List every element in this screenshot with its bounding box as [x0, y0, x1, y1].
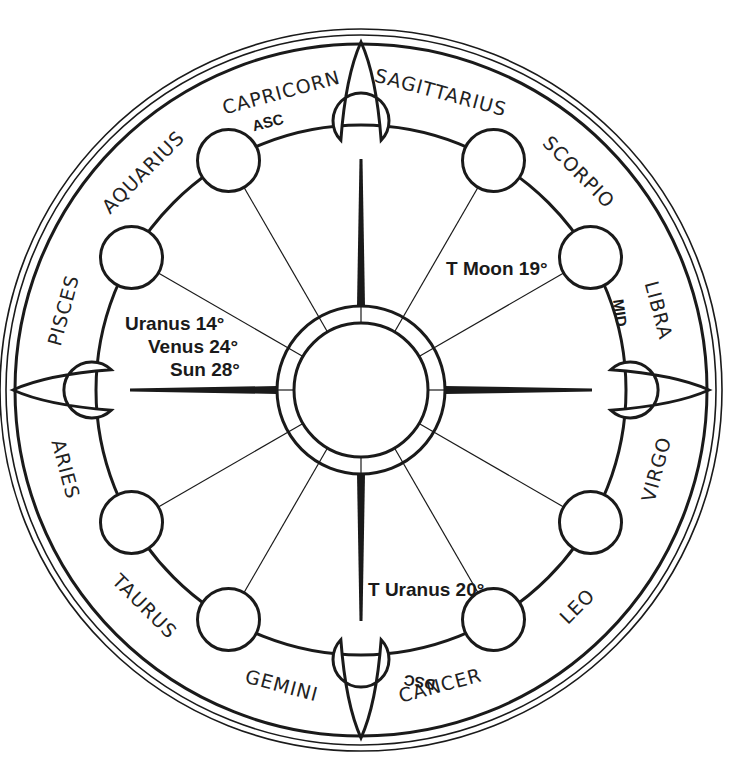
angle-axis [130, 386, 277, 394]
house-cusp-line [434, 432, 565, 508]
angle-axis [445, 386, 592, 394]
house-circle [463, 130, 525, 192]
house-circle [198, 588, 260, 650]
house-cusp-line [157, 432, 288, 508]
sign-label-leo: LEO [555, 584, 599, 628]
house-cusp-line [244, 463, 320, 594]
sign-label-libra: LIBRA [641, 278, 678, 341]
sign-label-pisces: PISCES [43, 272, 83, 348]
transit-moon: T Moon 19° [446, 258, 548, 279]
sign-label-virgo: VIRGO [637, 434, 675, 504]
sign-label-gemini: GEMINI [243, 665, 321, 706]
hub-inner-circle [294, 323, 428, 457]
house-cusp-line [244, 186, 320, 317]
house-cusp-line [403, 186, 479, 317]
angle-axis [357, 159, 365, 306]
house-circle [198, 130, 260, 192]
sign-label-scorpio: SCORPIO [539, 131, 620, 212]
asc-label: ASC [250, 110, 285, 134]
house-circle [559, 492, 621, 554]
house-cusp-line [403, 463, 479, 594]
planet-sun: Sun 28° [170, 359, 240, 380]
house-circle [101, 492, 163, 554]
astrology-wheel: CAPRICORNSAGITTARIUSSCORPIOLIBRAVIRGOLEO… [0, 0, 729, 779]
angle-axis [357, 474, 365, 621]
sign-label-taurus: TAURUS [107, 568, 181, 642]
center-hub [277, 306, 445, 474]
mid-label: MID [610, 298, 631, 328]
house-circle [559, 227, 621, 289]
transit-uranus: T Uranus 20° [368, 579, 484, 600]
sign-label-aries: ARIES [47, 437, 84, 501]
planet-venus: Venus 24° [148, 336, 238, 357]
house-circle [101, 227, 163, 289]
sign-label-aquarius: AQUARIUS [97, 126, 188, 217]
sign-label-sagittarius: SAGITTARIUS [373, 64, 510, 120]
house-cusp-line [434, 273, 565, 349]
planet-uranus: Uranus 14° [125, 313, 224, 334]
